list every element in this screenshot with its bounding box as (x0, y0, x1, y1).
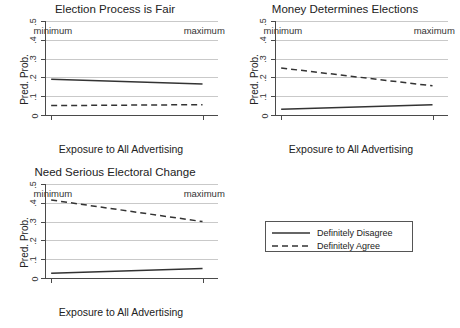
x-tick-label-min: minimum (264, 25, 303, 36)
legend-item-definitely-agree: Definitely Agree (271, 239, 405, 252)
y-tick-label: .2 (260, 74, 269, 82)
x-tick-label-max: maximum (184, 25, 225, 36)
legend-label: Definitely Agree (317, 241, 380, 251)
y-tick-label: 0 (261, 113, 270, 118)
chart-legend: Definitely Disagree Definitely Agree (265, 221, 413, 252)
panel-title: Money Determines Elections (234, 2, 456, 16)
series-line-dashed (51, 200, 202, 222)
panel-need-serious-electoral-change: Need Serious Electoral Change Pred. Prob… (4, 165, 226, 325)
x-axis-label: Exposure to All Advertising (28, 306, 214, 318)
y-tick-label: .1 (30, 256, 39, 264)
x-axis-line (45, 115, 218, 116)
x-axis-line (275, 115, 448, 116)
x-tick (203, 278, 204, 283)
legend-label: Definitely Disagree (317, 228, 393, 238)
plot-area: .5 .4 .3 .2 .1 0 minimum maximum (46, 184, 218, 278)
series-line-solid (281, 105, 432, 110)
y-tick (41, 278, 46, 279)
figure-canvas: Election Process is Fair Pred. Prob. .5 (0, 0, 460, 328)
y-tick-label: .1 (260, 93, 269, 101)
legend-item-definitely-disagree: Definitely Disagree (271, 226, 405, 239)
plot-area: .5 .4 .3 .2 .1 0 minimum maximum (276, 21, 448, 115)
x-tick (203, 115, 204, 120)
y-tick (271, 115, 276, 116)
y-tick-label: .3 (260, 55, 269, 63)
x-axis-label: Exposure to All Advertising (258, 143, 444, 155)
series-line-dashed (281, 68, 432, 86)
y-tick-label: .2 (30, 74, 39, 82)
y-tick-label: .4 (260, 37, 269, 45)
y-tick-label: 0 (31, 113, 40, 118)
x-axis-line (45, 278, 218, 279)
y-tick-label: .3 (30, 55, 39, 63)
legend-key-dashed-icon (271, 241, 311, 251)
y-tick-label: .4 (30, 200, 39, 208)
panel-election-process-is-fair: Election Process is Fair Pred. Prob. .5 (4, 2, 226, 162)
x-tick-label-max: maximum (414, 25, 455, 36)
series-line-dashed (51, 105, 202, 106)
panel-title: Need Serious Electoral Change (4, 165, 226, 179)
x-axis-label: Exposure to All Advertising (28, 143, 214, 155)
legend-key-solid-icon (271, 228, 311, 238)
plot-area: .5 .4 .3 .2 .1 0 minimum maximum (46, 21, 218, 115)
x-tick (281, 115, 282, 120)
x-tick (433, 115, 434, 120)
y-tick-label: .4 (30, 37, 39, 45)
x-tick (51, 115, 52, 120)
y-tick-label: 0 (31, 276, 40, 281)
x-tick-label-min: minimum (34, 188, 73, 199)
x-tick (51, 278, 52, 283)
series-line-solid (51, 79, 202, 84)
panel-money-determines-elections: Money Determines Elections Pred. Prob. .… (234, 2, 456, 162)
y-tick (41, 115, 46, 116)
series-line-solid (51, 269, 202, 274)
y-tick-label: .1 (30, 93, 39, 101)
x-tick-label-max: maximum (184, 188, 225, 199)
y-tick-label: .3 (30, 218, 39, 226)
y-tick-label: .2 (30, 237, 39, 245)
panel-title: Election Process is Fair (4, 2, 226, 16)
x-tick-label-min: minimum (34, 25, 73, 36)
